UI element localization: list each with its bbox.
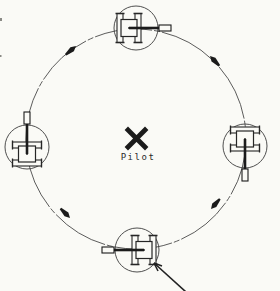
scan-artifacts [0,18,2,57]
pilot-marker: Pilot [121,130,156,162]
annotation-arrow-shaft [154,263,186,291]
annotation-arrow [154,263,186,291]
arrow-lower-right [209,197,222,211]
arrow-upper-right [208,54,221,67]
tank-left [5,112,49,169]
tank-bottom [102,228,159,272]
scanned-diagram-page: Pilot [0,0,280,291]
arrow-lower-left [59,207,72,220]
pilot-x-icon [128,130,145,147]
tank-right [223,124,267,181]
pilot-label: Pilot [121,152,156,162]
arrow-upper-left [64,44,78,57]
wagon-wheel-formation-diagram: Pilot [0,0,280,291]
tank-top [114,6,171,50]
